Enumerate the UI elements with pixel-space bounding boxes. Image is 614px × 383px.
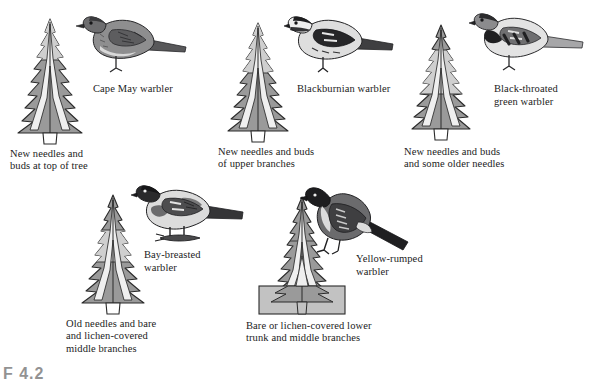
zone-caption-blackburnian: New needles and buds of upper branches <box>218 146 314 171</box>
figure-number: F 4.2 <box>3 365 44 383</box>
zone-caption-bay-breasted: Old needles and bare and lichen-covered … <box>66 318 156 355</box>
bird-label-yellow-rumped: Yellow-rumped warbler <box>356 252 423 278</box>
zone-caption-yellow-rumped: Bare or lichen-covered lower trunk and m… <box>246 320 372 345</box>
zone-caption-cape-may: New needles and buds at top of tree <box>10 148 88 173</box>
zone-caption-black-throated-green: New needles and buds and some older need… <box>404 146 504 171</box>
bird-yellow-rumped-warbler <box>296 182 412 258</box>
bird-label-cape-may: Cape May warbler <box>93 82 173 95</box>
bird-label-blackburnian: Blackburnian warbler <box>297 82 390 95</box>
bird-blackburnian-warbler <box>282 8 394 78</box>
bird-bay-breasted-warbler <box>126 176 244 248</box>
bird-black-throated-green-warbler <box>466 4 584 76</box>
bird-label-bay-breasted: Bay-breasted warbler <box>144 248 201 274</box>
bird-label-black-throated-green: Black-throated green warbler <box>494 82 558 108</box>
bird-cape-may-warbler <box>76 6 188 78</box>
